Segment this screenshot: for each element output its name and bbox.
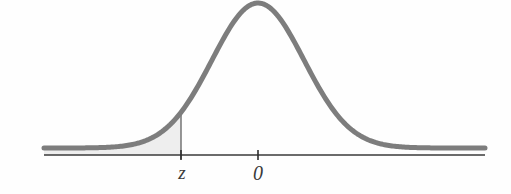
axis-label-zero: 0 (238, 163, 278, 183)
normal-curve-figure: z 0 (0, 0, 511, 194)
bell-curve-path (44, 3, 485, 148)
axis-label-z: z (162, 163, 202, 182)
